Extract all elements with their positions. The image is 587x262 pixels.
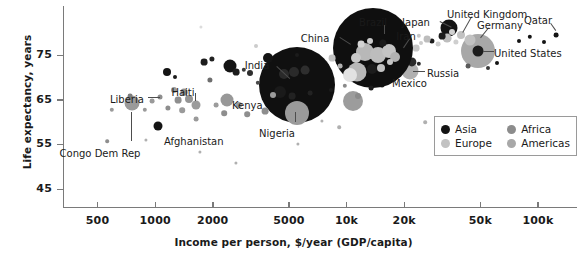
annotation-label: Mexico bbox=[392, 78, 427, 89]
legend-item-africa[interactable]: Africa bbox=[505, 122, 572, 136]
bubble[interactable] bbox=[221, 110, 227, 116]
bubble[interactable] bbox=[165, 105, 170, 110]
annotation-label: Liberia bbox=[110, 94, 144, 105]
bubble[interactable] bbox=[343, 84, 347, 88]
bubble[interactable] bbox=[320, 119, 323, 122]
bubble[interactable] bbox=[289, 93, 296, 100]
legend: AsiaAfricaEuropeAmericas bbox=[434, 116, 577, 156]
annotation-label: Russia bbox=[427, 68, 459, 79]
annotation-label: Qatar bbox=[524, 15, 552, 26]
bubble[interactable] bbox=[424, 36, 431, 43]
bubble[interactable] bbox=[554, 33, 559, 38]
bubble[interactable] bbox=[337, 125, 341, 129]
bubble[interactable] bbox=[439, 33, 446, 40]
bubble[interactable] bbox=[173, 75, 177, 79]
bubble[interactable] bbox=[329, 88, 333, 92]
annotation-label: India bbox=[245, 60, 270, 71]
legend-item-americas[interactable]: Americas bbox=[505, 136, 572, 150]
bubble[interactable] bbox=[289, 67, 299, 77]
bubble[interactable] bbox=[110, 108, 114, 112]
bubble-chart-figure: 75655545 50010002000500010k20k50k100k Li… bbox=[0, 0, 587, 262]
bubble[interactable] bbox=[453, 39, 458, 44]
bubble[interactable] bbox=[343, 68, 357, 82]
bubble[interactable] bbox=[358, 41, 365, 48]
bubble[interactable] bbox=[194, 117, 199, 122]
bubble[interactable] bbox=[338, 64, 343, 69]
bubble[interactable] bbox=[244, 111, 250, 117]
bubble[interactable] bbox=[254, 44, 258, 48]
bubble[interactable] bbox=[207, 77, 212, 82]
bubble[interactable] bbox=[285, 101, 309, 125]
bubble[interactable] bbox=[369, 86, 374, 91]
legend-label: Asia bbox=[455, 123, 477, 135]
bubble[interactable] bbox=[179, 107, 185, 113]
annotation-label: Iran bbox=[396, 31, 416, 42]
bubble[interactable] bbox=[517, 39, 521, 43]
bubble[interactable] bbox=[150, 99, 155, 104]
bubble[interactable] bbox=[528, 35, 532, 39]
bubble[interactable] bbox=[301, 66, 310, 75]
bubble[interactable] bbox=[270, 92, 276, 98]
annotation-label: United States bbox=[494, 48, 562, 59]
bubble[interactable] bbox=[198, 150, 201, 153]
bubble[interactable] bbox=[154, 122, 163, 131]
bubble[interactable] bbox=[377, 64, 385, 72]
bubble[interactable] bbox=[163, 68, 171, 76]
annotation-leader-line bbox=[195, 93, 196, 101]
annotation-label: Kenya bbox=[232, 100, 263, 111]
annotation-label: Nigeria bbox=[259, 128, 295, 139]
annotation-leader-line bbox=[483, 51, 494, 52]
bubble[interactable] bbox=[329, 55, 336, 62]
bubble[interactable] bbox=[199, 25, 202, 28]
bubble[interactable] bbox=[495, 61, 499, 65]
bubble[interactable] bbox=[417, 34, 421, 38]
annotation-label: China bbox=[301, 33, 330, 44]
bubble[interactable] bbox=[192, 101, 201, 110]
annotation-leader-line bbox=[148, 97, 160, 98]
legend-label: Americas bbox=[521, 137, 570, 149]
bubble[interactable] bbox=[262, 108, 269, 115]
annotation-leader-line bbox=[131, 112, 132, 141]
bubble[interactable] bbox=[473, 46, 484, 57]
bubble[interactable] bbox=[144, 138, 147, 141]
annotation-label: Germany bbox=[477, 20, 523, 31]
bubble[interactable] bbox=[387, 59, 393, 65]
bubble[interactable] bbox=[466, 64, 471, 69]
bubble[interactable] bbox=[274, 86, 286, 98]
bubble[interactable] bbox=[367, 64, 377, 74]
bubble[interactable] bbox=[465, 35, 476, 46]
legend-item-asia[interactable]: Asia bbox=[439, 122, 505, 136]
bubble[interactable] bbox=[105, 139, 109, 143]
annotation-label: Congo Dem Rep bbox=[60, 148, 141, 159]
legend-swatch-icon bbox=[507, 139, 516, 148]
legend-swatch-icon bbox=[441, 125, 450, 134]
bubble[interactable] bbox=[143, 108, 147, 112]
bubble[interactable] bbox=[296, 142, 299, 145]
annotation-label: United Kingdom bbox=[447, 9, 527, 20]
bubble[interactable] bbox=[201, 59, 208, 66]
bubble[interactable] bbox=[542, 40, 546, 44]
bubble[interactable] bbox=[486, 66, 490, 70]
legend-label: Africa bbox=[521, 123, 551, 135]
bubble[interactable] bbox=[308, 91, 313, 96]
bubble[interactable] bbox=[413, 45, 420, 52]
legend-swatch-icon bbox=[507, 125, 516, 134]
bubble[interactable] bbox=[436, 42, 441, 47]
legend-item-europe[interactable]: Europe bbox=[439, 136, 505, 150]
legend-label: Europe bbox=[455, 137, 492, 149]
bubble[interactable] bbox=[355, 93, 361, 99]
bubble[interactable] bbox=[234, 161, 237, 164]
bubble[interactable] bbox=[367, 38, 373, 44]
bubble[interactable] bbox=[209, 56, 214, 61]
bubble[interactable] bbox=[449, 29, 455, 35]
bubble[interactable] bbox=[417, 62, 421, 66]
bubble[interactable] bbox=[419, 41, 423, 45]
annotation-leader-line bbox=[295, 112, 296, 122]
bubble[interactable] bbox=[351, 53, 361, 63]
bubble[interactable] bbox=[233, 69, 240, 76]
annotation-label: Japan bbox=[402, 17, 430, 28]
bubble[interactable] bbox=[295, 53, 299, 57]
bubble[interactable] bbox=[214, 103, 219, 108]
annotation-leader-line bbox=[413, 71, 425, 72]
bubble[interactable] bbox=[423, 120, 427, 124]
